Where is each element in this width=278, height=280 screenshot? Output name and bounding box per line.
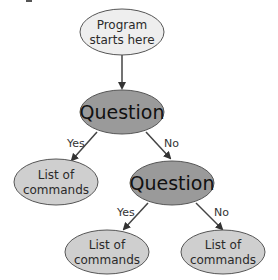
node-question-1: Question [80, 90, 165, 134]
q1-no-label: No [164, 137, 179, 150]
node-program-start: Program starts here [80, 9, 164, 55]
node-list-left: List of commands [14, 159, 98, 205]
question1-label: Question [80, 101, 165, 123]
cropped-caption-fragment [26, 0, 32, 2]
list-bottom-right-line1: List of [205, 238, 242, 252]
node-list-bottom-right: List of commands [181, 230, 265, 274]
q2-no-label: No [214, 206, 229, 219]
list-left-line2: commands [23, 183, 89, 197]
start-line1: Program [97, 18, 148, 32]
node-question-2: Question [130, 161, 215, 205]
list-bottom-right-line2: commands [190, 253, 256, 267]
node-list-bottom-left: List of commands [65, 230, 149, 274]
list-bottom-left-line1: List of [89, 238, 126, 252]
question2-label: Question [130, 172, 215, 194]
start-ellipse [80, 9, 164, 55]
list-bottom-right-ellipse [181, 230, 265, 274]
list-bottom-left-ellipse [65, 230, 149, 274]
list-left-line1: List of [38, 168, 75, 182]
q2-yes-label: Yes [116, 206, 135, 219]
list-left-ellipse [14, 159, 98, 205]
q1-yes-label: Yes [66, 137, 85, 150]
start-line2: starts here [89, 33, 154, 47]
list-bottom-left-line2: commands [74, 253, 140, 267]
flowchart-diagram: Yes No Yes No Program starts here Questi… [0, 0, 278, 280]
